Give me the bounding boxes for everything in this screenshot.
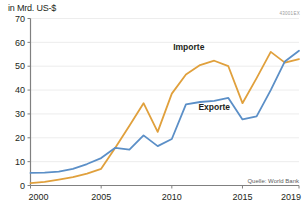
- x-tick-label: 2019: [281, 192, 301, 202]
- x-tick-label: 2010: [162, 192, 182, 202]
- y-tick-label: 50: [15, 61, 25, 71]
- y-tick-label: 20: [15, 133, 25, 143]
- series-label-exporte: Exporte: [198, 102, 230, 112]
- y-tick-label: 60: [15, 38, 25, 48]
- y-tick-labels: 010203040506070: [15, 14, 25, 191]
- series-line-importe: [31, 52, 300, 183]
- x-tick-label: 2015: [232, 192, 252, 202]
- y-tick-label: 70: [15, 14, 25, 24]
- series-annotations: ImporteExporte: [173, 42, 230, 113]
- y-tick-label: 40: [15, 85, 25, 95]
- x-axis: [31, 186, 300, 189]
- line-chart-plot: 010203040506070 20002005201020152019 Imp…: [0, 0, 305, 208]
- x-tick-label: 2000: [28, 192, 48, 202]
- chart-container: in Mrd. US-$ 43001EX Quelle: World Bank …: [0, 0, 305, 208]
- y-tick-label: 30: [15, 109, 25, 119]
- y-axis: [28, 19, 31, 186]
- x-tick-label: 2005: [91, 192, 111, 202]
- data-series: [31, 51, 300, 183]
- x-tick-labels: 20002005201020152019: [28, 192, 301, 202]
- series-label-importe: Importe: [173, 42, 204, 52]
- y-tick-label: 0: [20, 181, 25, 191]
- y-tick-label: 10: [15, 157, 25, 167]
- gridlines: [31, 19, 300, 162]
